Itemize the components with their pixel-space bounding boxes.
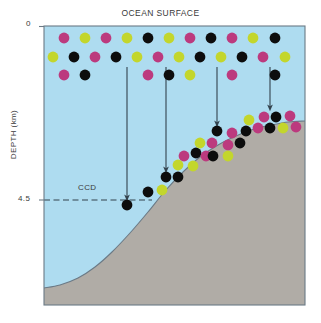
ccd-diagram-svg <box>0 0 321 323</box>
slope-particle-3 <box>157 185 168 196</box>
surface-particle-2-3 <box>164 70 175 81</box>
slope-particle-16 <box>223 151 234 162</box>
surface-particle-1-1 <box>69 52 80 63</box>
surface-particle-0-5 <box>164 33 175 44</box>
surface-particle-1-4 <box>132 52 143 63</box>
slope-particle-11 <box>207 138 218 149</box>
surface-particle-1-10 <box>258 52 269 63</box>
slope-particle-4 <box>173 160 184 171</box>
ccd-annotation-label: CCD <box>78 183 97 192</box>
slope-particle-17 <box>235 138 246 149</box>
slope-particle-14 <box>223 140 234 151</box>
slope-particle-1 <box>143 187 154 198</box>
slope-particle-19 <box>244 115 255 126</box>
slope-particle-13 <box>208 151 219 162</box>
slope-particle-12 <box>212 126 223 137</box>
surface-particle-1-5 <box>153 52 164 63</box>
surface-particle-0-10 <box>270 33 281 44</box>
slope-particle-5 <box>173 172 184 183</box>
surface-particle-0-7 <box>206 33 217 44</box>
surface-particle-0-0 <box>59 33 70 44</box>
chart-title: OCEAN SURFACE <box>0 8 321 18</box>
surface-particle-1-3 <box>111 52 122 63</box>
surface-particle-1-8 <box>216 52 227 63</box>
surface-particle-1-2 <box>90 52 101 63</box>
surface-particle-0-8 <box>227 33 238 44</box>
surface-particle-0-1 <box>80 33 91 44</box>
surface-particle-0-4 <box>143 33 154 44</box>
surface-particle-2-6 <box>270 70 281 81</box>
slope-particle-2 <box>161 172 172 183</box>
surface-particle-1-0 <box>48 52 59 63</box>
diagram-root: OCEAN SURFACE DEPTH (km) 0 4.5 CCD <box>0 0 321 323</box>
slope-particle-18 <box>241 126 252 137</box>
slope-particle-25 <box>285 111 296 122</box>
y-tick-label-0: 0 <box>26 19 31 28</box>
slope-particle-0 <box>122 200 133 211</box>
surface-particle-0-6 <box>185 33 196 44</box>
y-axis-label: DEPTH (km) <box>9 90 18 180</box>
surface-particle-1-9 <box>237 52 248 63</box>
slope-particle-23 <box>271 112 282 123</box>
surface-particle-0-2 <box>101 33 112 44</box>
surface-particle-1-6 <box>174 52 185 63</box>
y-tick-label-4-5: 4.5 <box>18 194 30 203</box>
slope-particle-6 <box>179 151 190 162</box>
slope-particle-24 <box>278 123 289 134</box>
surface-particle-2-1 <box>80 70 91 81</box>
slope-particle-8 <box>188 161 199 172</box>
surface-particle-0-9 <box>248 33 259 44</box>
slope-particle-15 <box>227 128 238 139</box>
surface-particle-2-2 <box>143 70 154 81</box>
slope-particle-21 <box>259 112 270 123</box>
slope-particle-9 <box>195 138 206 149</box>
surface-particle-2-4 <box>185 70 196 81</box>
surface-particle-2-5 <box>227 70 238 81</box>
slope-particle-22 <box>265 123 276 134</box>
surface-particle-1-11 <box>280 52 291 63</box>
surface-particle-2-0 <box>59 70 70 81</box>
surface-particle-0-3 <box>122 33 133 44</box>
slope-particle-7 <box>191 148 202 159</box>
slope-particle-20 <box>253 123 264 134</box>
surface-particle-1-7 <box>195 52 206 63</box>
slope-particle-26 <box>291 122 302 133</box>
